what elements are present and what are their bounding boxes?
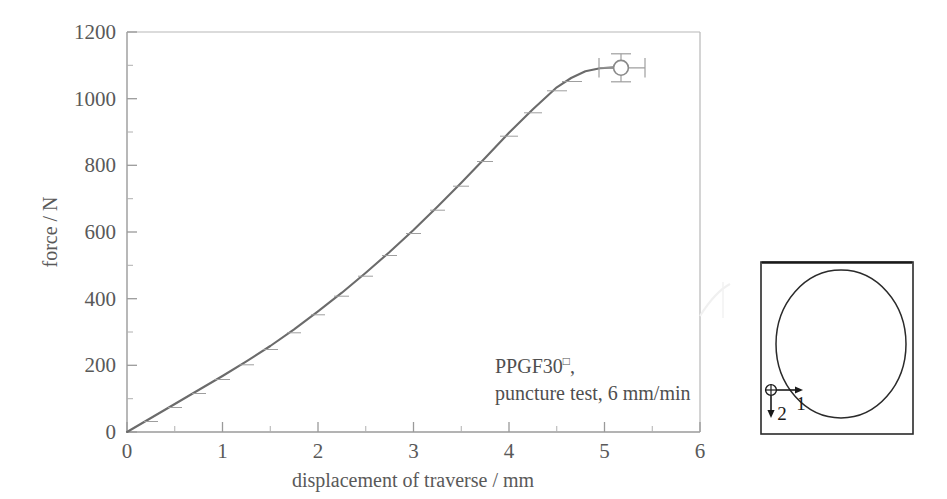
x-tick-label: 6 [695, 439, 706, 463]
annotation-material-superscript: □ [563, 354, 570, 368]
y-tick-label: 1000 [74, 87, 116, 111]
y-tick-label: 0 [106, 420, 117, 444]
y-axis-tick-labels: 0 200 400 600 800 1000 1200 [74, 20, 116, 444]
annotation-material-text: PPGF30 [495, 355, 563, 377]
plot-frame [127, 32, 700, 432]
force-displacement-curve [127, 67, 621, 432]
y-axis-title: force / N [39, 196, 61, 267]
annotation-test-conditions: puncture test, 6 mm/min [495, 382, 691, 405]
y-tick-label: 1200 [74, 20, 116, 44]
x-axis-major-ticks [127, 422, 700, 432]
origin-crossed-circle-icon [766, 385, 777, 396]
y-tick-label: 400 [85, 287, 117, 311]
x-axis-tick-labels: 0 1 2 3 4 5 6 [122, 439, 706, 463]
data-series-ppgf30 [127, 67, 621, 432]
y-tick-label: 600 [85, 220, 117, 244]
specimen-orientation-diagram: 1 2 [761, 262, 913, 434]
x-tick-label: 4 [504, 439, 515, 463]
x-tick-label: 2 [313, 439, 324, 463]
peak-marker-group [599, 54, 645, 82]
x-tick-label: 1 [217, 439, 228, 463]
y-tick-label: 200 [85, 353, 117, 377]
inset-axis-2-label: 2 [777, 403, 787, 424]
inset-axis-1-label: 1 [796, 393, 806, 414]
x-tick-label: 0 [122, 439, 133, 463]
figure-container: 0 200 400 600 800 1000 1200 0 1 2 3 4 5 … [0, 0, 947, 499]
plot-annotations: PPGF30□, puncture test, 6 mm/min [495, 354, 691, 405]
annotation-material: PPGF30□, [495, 354, 575, 377]
x-tick-label: 5 [599, 439, 610, 463]
x-axis-title: displacement of traverse / mm [292, 469, 535, 492]
peak-open-circle-marker [614, 60, 629, 75]
force-displacement-chart: 0 200 400 600 800 1000 1200 0 1 2 3 4 5 … [0, 0, 947, 499]
y-axis-major-ticks [127, 32, 137, 432]
scan-artifact [700, 284, 730, 316]
x-tick-label: 3 [408, 439, 419, 463]
annotation-material-suffix: , [570, 355, 575, 377]
y-tick-label: 800 [85, 153, 117, 177]
